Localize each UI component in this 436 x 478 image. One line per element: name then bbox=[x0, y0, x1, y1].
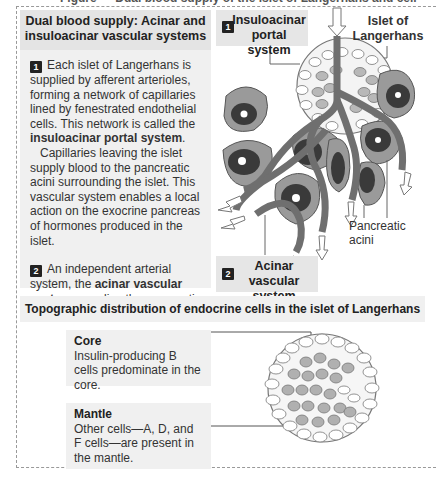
number-badge-1: 1 bbox=[222, 21, 234, 33]
label-acinar-vascular-system: 2 Acinar vascular system bbox=[216, 256, 318, 292]
islet-cell-distribution-illustration bbox=[0, 318, 425, 478]
label-islet-of-langerhans: Islet of Langerhans bbox=[352, 14, 424, 44]
label-pancreatic-acini: Pancreatic acini bbox=[349, 219, 425, 247]
label-insuloacinar-portal-system: 1 Insuloacinar portal system bbox=[216, 10, 308, 46]
number-badge-2: 2 bbox=[222, 268, 234, 280]
